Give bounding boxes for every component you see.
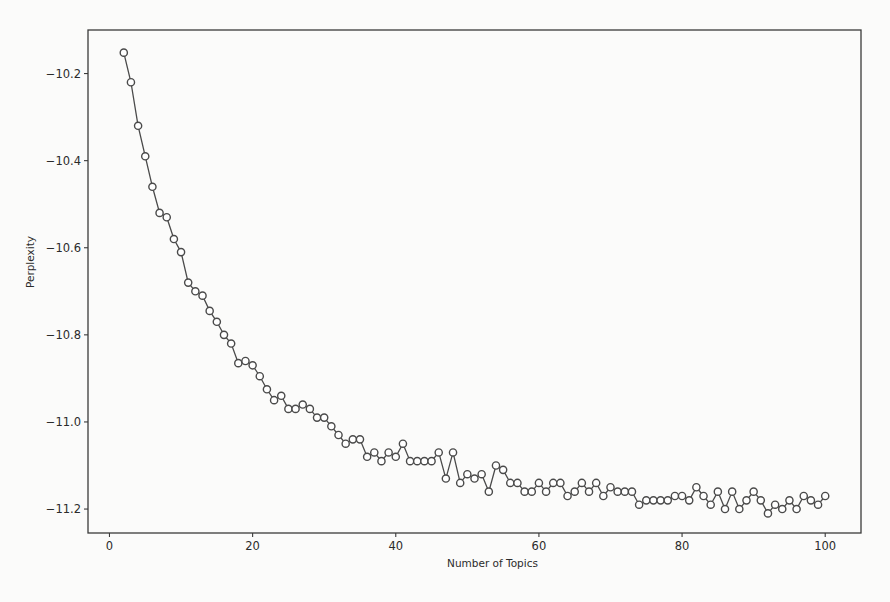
data-point-marker bbox=[220, 331, 227, 338]
data-point-marker bbox=[750, 488, 757, 495]
x-axis-label: Number of Topics bbox=[447, 557, 538, 569]
data-point-marker bbox=[163, 214, 170, 221]
data-point-marker bbox=[807, 497, 814, 504]
data-point-marker bbox=[607, 484, 614, 491]
data-point-marker bbox=[793, 505, 800, 512]
data-point-marker bbox=[256, 373, 263, 380]
data-point-marker bbox=[700, 492, 707, 499]
data-point-marker bbox=[800, 492, 807, 499]
data-point-marker bbox=[814, 501, 821, 508]
data-point-marker bbox=[442, 475, 449, 482]
data-point-marker bbox=[185, 279, 192, 286]
data-point-marker bbox=[406, 458, 413, 465]
data-point-marker bbox=[621, 488, 628, 495]
data-point-marker bbox=[714, 488, 721, 495]
data-point-marker bbox=[228, 340, 235, 347]
y-axis: −10.2−10.4−10.6−10.8−11.0−11.2 bbox=[46, 67, 88, 516]
data-point-marker bbox=[471, 475, 478, 482]
data-point-marker bbox=[392, 453, 399, 460]
x-tick-label: 0 bbox=[106, 539, 113, 553]
data-point-marker bbox=[235, 360, 242, 367]
data-point-marker bbox=[628, 488, 635, 495]
data-point-marker bbox=[550, 479, 557, 486]
data-point-marker bbox=[507, 479, 514, 486]
data-point-marker bbox=[135, 122, 142, 129]
data-point-marker bbox=[643, 497, 650, 504]
data-point-marker bbox=[593, 479, 600, 486]
data-point-marker bbox=[278, 392, 285, 399]
data-point-marker bbox=[521, 488, 528, 495]
y-tick-label: −10.6 bbox=[46, 241, 81, 255]
data-point-marker bbox=[650, 497, 657, 504]
data-point-marker bbox=[786, 497, 793, 504]
axes-frame bbox=[88, 30, 861, 533]
data-point-marker bbox=[707, 501, 714, 508]
data-point-marker bbox=[385, 449, 392, 456]
data-point-marker bbox=[457, 479, 464, 486]
data-point-marker bbox=[636, 501, 643, 508]
data-point-marker bbox=[270, 397, 277, 404]
data-point-marker bbox=[192, 288, 199, 295]
series-line bbox=[124, 53, 825, 514]
y-axis-label: Perplexity bbox=[24, 236, 36, 288]
data-point-marker bbox=[464, 471, 471, 478]
y-tick-label: −11.0 bbox=[46, 415, 81, 429]
data-point-marker bbox=[306, 405, 313, 412]
data-point-marker bbox=[292, 405, 299, 412]
data-point-marker bbox=[528, 488, 535, 495]
data-point-marker bbox=[342, 440, 349, 447]
y-tick-label: −10.4 bbox=[46, 154, 81, 168]
data-point-marker bbox=[686, 497, 693, 504]
data-point-marker bbox=[535, 479, 542, 486]
data-point-marker bbox=[721, 505, 728, 512]
data-point-marker bbox=[657, 497, 664, 504]
x-axis: 020406080100 bbox=[106, 533, 836, 553]
y-tick-label: −10.8 bbox=[46, 328, 81, 342]
data-point-marker bbox=[485, 488, 492, 495]
x-tick-label: 60 bbox=[532, 539, 547, 553]
x-tick-label: 80 bbox=[675, 539, 690, 553]
data-point-marker bbox=[772, 501, 779, 508]
data-point-marker bbox=[614, 488, 621, 495]
y-tick-label: −11.2 bbox=[46, 502, 81, 516]
data-point-marker bbox=[764, 510, 771, 517]
data-point-marker bbox=[142, 153, 149, 160]
data-point-marker bbox=[349, 436, 356, 443]
data-point-marker bbox=[177, 249, 184, 256]
data-point-marker bbox=[678, 492, 685, 499]
plot-area bbox=[120, 49, 829, 517]
data-point-marker bbox=[213, 318, 220, 325]
data-point-marker bbox=[600, 492, 607, 499]
data-point-marker bbox=[822, 492, 829, 499]
data-point-marker bbox=[542, 488, 549, 495]
x-tick-label: 100 bbox=[814, 539, 836, 553]
data-point-marker bbox=[378, 458, 385, 465]
data-point-marker bbox=[299, 401, 306, 408]
data-point-marker bbox=[500, 466, 507, 473]
data-point-marker bbox=[335, 431, 342, 438]
data-point-marker bbox=[557, 479, 564, 486]
data-point-marker bbox=[571, 488, 578, 495]
data-point-marker bbox=[428, 458, 435, 465]
data-point-marker bbox=[356, 436, 363, 443]
data-point-marker bbox=[127, 79, 134, 86]
data-point-marker bbox=[242, 357, 249, 364]
data-point-marker bbox=[206, 307, 213, 314]
perplexity-line-chart: 020406080100 −10.2−10.4−10.6−10.8−11.0−1… bbox=[0, 0, 890, 602]
data-point-marker bbox=[364, 453, 371, 460]
data-point-marker bbox=[693, 484, 700, 491]
data-point-marker bbox=[414, 458, 421, 465]
data-point-marker bbox=[199, 292, 206, 299]
data-point-marker bbox=[328, 423, 335, 430]
data-point-marker bbox=[671, 492, 678, 499]
data-point-marker bbox=[156, 209, 163, 216]
data-point-marker bbox=[779, 505, 786, 512]
x-tick-label: 40 bbox=[388, 539, 403, 553]
data-point-marker bbox=[421, 458, 428, 465]
data-point-marker bbox=[492, 462, 499, 469]
x-tick-label: 20 bbox=[245, 539, 260, 553]
data-point-marker bbox=[578, 479, 585, 486]
data-point-marker bbox=[321, 414, 328, 421]
data-point-marker bbox=[149, 183, 156, 190]
data-point-marker bbox=[449, 449, 456, 456]
